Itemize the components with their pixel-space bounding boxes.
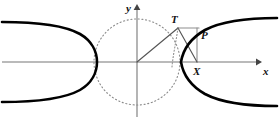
- construction-segments: [137, 28, 199, 67]
- point-p-label: P: [201, 30, 208, 41]
- tangent-arc-at-t: [172, 28, 178, 67]
- figure-canvas: [0, 0, 279, 119]
- x-axis-arrow-icon: [256, 59, 262, 66]
- point-t-label: T: [171, 14, 178, 25]
- segment-origin-to-t: [137, 28, 178, 62]
- point-x-label: X: [193, 66, 200, 77]
- y-axis-label: y: [126, 3, 131, 14]
- x-axis-label: x: [263, 66, 269, 77]
- y-axis-arrow-icon: [134, 4, 141, 10]
- geometry-figure: y x T P X: [0, 0, 279, 119]
- x-axis: [2, 59, 262, 66]
